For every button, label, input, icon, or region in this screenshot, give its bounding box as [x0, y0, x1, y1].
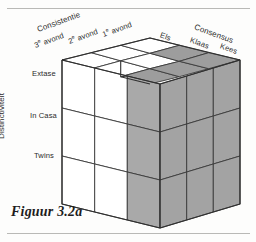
- tick-label-twins: Twins: [34, 152, 54, 160]
- figure-panel: Consistentie 3e avond 2e avond 1e avond …: [0, 0, 256, 242]
- tick-label-extase: Extase: [32, 70, 56, 78]
- figure-caption: Figuur 3.2a: [11, 204, 82, 220]
- front-face-cells: [62, 60, 160, 228]
- right-face-cells: [160, 60, 240, 228]
- tick-label-in-casa: In Casa: [30, 112, 57, 120]
- axis-label-distinctiviteit: Distinctiviteit: [0, 93, 6, 139]
